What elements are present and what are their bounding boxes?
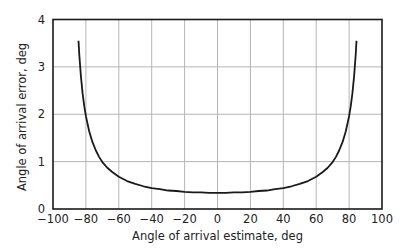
x-axis-title: Angle of arrival estimate, deg bbox=[132, 229, 303, 243]
x-tick-label: 80 bbox=[342, 212, 357, 226]
x-tick-label: 20 bbox=[243, 212, 258, 226]
x-tick-label: 40 bbox=[276, 212, 291, 226]
x-tick-label: 60 bbox=[309, 212, 324, 226]
x-tick-label: 0 bbox=[214, 212, 221, 226]
x-tick-label: −80 bbox=[74, 212, 98, 226]
chart: −100−80−60−40−20020406080100 01234 Angle… bbox=[0, 0, 411, 252]
x-tick-label: 100 bbox=[371, 212, 393, 226]
x-axis-tick-labels: −100−80−60−40−20020406080100 bbox=[37, 212, 393, 226]
y-tick-label: 4 bbox=[38, 13, 45, 27]
y-tick-label: 0 bbox=[38, 202, 45, 216]
y-tick-label: 1 bbox=[38, 155, 45, 169]
x-tick-label: −60 bbox=[107, 212, 131, 226]
y-tick-label: 3 bbox=[38, 60, 45, 74]
x-tick-label: −40 bbox=[140, 212, 164, 226]
y-axis-tick-labels: 01234 bbox=[38, 13, 45, 217]
y-tick-label: 2 bbox=[38, 107, 45, 121]
y-axis-title: Angle of arrival error, deg bbox=[15, 43, 29, 191]
gridlines bbox=[53, 20, 382, 210]
x-tick-label: −20 bbox=[172, 212, 196, 226]
